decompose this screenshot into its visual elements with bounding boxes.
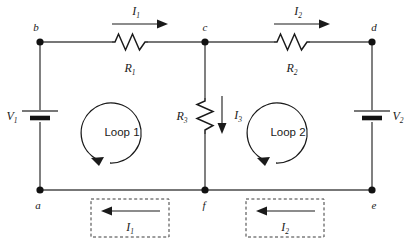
- current-label-i2-bottom: I2: [280, 220, 289, 236]
- annotation-box-i1: I1: [91, 199, 169, 237]
- node-label-a: a: [35, 199, 41, 211]
- node-label-f: f: [202, 199, 207, 211]
- loop-label-1: Loop 1: [104, 126, 139, 138]
- resistor-label-r1: R1: [123, 61, 135, 77]
- node-dot-b: [36, 38, 43, 45]
- node-dot-e: [368, 186, 375, 193]
- annotation-box-i2: I2: [246, 199, 324, 237]
- node-label-d: d: [371, 21, 377, 33]
- node-label-b: b: [33, 21, 39, 33]
- source-label-v1: V1: [6, 109, 17, 125]
- resistor-label-r2: R2: [285, 61, 297, 77]
- current-arrow-i2-top: [274, 20, 330, 29]
- voltage-source-v1-symbol: [22, 111, 58, 118]
- node-label-c: c: [203, 21, 208, 33]
- source-label-v2: V2: [392, 109, 403, 125]
- current-label-i3: I3: [233, 108, 242, 124]
- resistor-r1-symbol: [112, 34, 148, 50]
- circuit-diagram: b c d a f e R1 R2 R3 V1 V2 I1 I2 I3: [0, 0, 409, 246]
- current-label-i1-top: I1: [131, 4, 140, 20]
- current-label-i1-bottom: I1: [125, 220, 134, 236]
- node-dot-f: [201, 186, 208, 193]
- node-dot-c: [201, 38, 208, 45]
- resistor-r3-symbol: [197, 98, 213, 134]
- node-label-e: e: [372, 199, 377, 211]
- current-label-i2-top: I2: [293, 4, 302, 20]
- voltage-source-v2-symbol: [354, 111, 390, 118]
- wire-network: [40, 42, 372, 190]
- node-dot-a: [36, 186, 43, 193]
- current-arrow-i1-top: [112, 20, 168, 29]
- current-arrow-i3: [218, 96, 227, 134]
- resistor-r2-symbol: [274, 34, 310, 50]
- resistor-label-r3: R3: [175, 109, 187, 125]
- node-dot-d: [368, 38, 375, 45]
- loop-label-2: Loop 2: [270, 126, 305, 138]
